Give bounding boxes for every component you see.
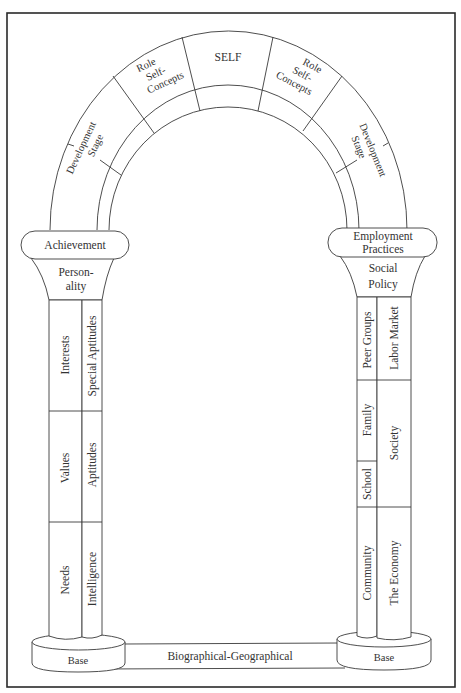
- left-cell-aptitudes: Aptitudes: [86, 442, 99, 487]
- right-cell-community: Community: [361, 545, 374, 600]
- right-cell-peer-groups: Peer Groups: [361, 311, 374, 369]
- left-cell-interests: Interests: [59, 335, 71, 374]
- right-cell-labor-market: Labor Market: [388, 305, 400, 369]
- right-cell-school: School: [361, 468, 373, 500]
- left-cell-values: Values: [59, 452, 71, 483]
- foundation-label: Biographical-Geographical: [167, 650, 292, 663]
- right-neck-label: Policy: [368, 278, 398, 291]
- right-neck-label: Social: [369, 262, 398, 274]
- right-capital-label: Practices: [362, 243, 404, 255]
- right-cell-the-economy: The Economy: [388, 540, 401, 605]
- career-archway-diagram: SELF Role Self- Concepts Role Self- Conc…: [0, 0, 461, 693]
- left-capital-label: Achievement: [44, 239, 106, 251]
- left-cell-intelligence: Intelligence: [86, 552, 99, 606]
- right-cell-society: Society: [388, 426, 401, 461]
- left-neck-label: Person-: [58, 266, 93, 278]
- left-cell-needs: Needs: [59, 565, 71, 594]
- right-base-label: Base: [374, 652, 395, 663]
- keystone-label: SELF: [215, 51, 242, 63]
- left-cell-special-aptitudes: Special Aptitudes: [86, 315, 99, 396]
- right-cell-family: Family: [361, 403, 374, 436]
- right-capital-label: Employment: [353, 230, 413, 243]
- left-base-label: Base: [68, 655, 89, 666]
- left-neck-label: ality: [66, 280, 87, 293]
